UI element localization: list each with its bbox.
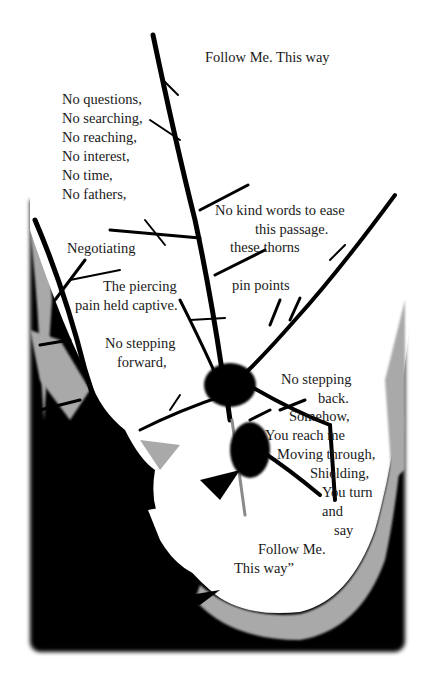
line-these-thorns: these thorns <box>230 240 300 255</box>
line-pain-held-captive: pain held captive. <box>75 298 178 313</box>
line-kind-words: No kind words to ease <box>215 203 345 218</box>
line-you-turn: You turn <box>322 485 373 500</box>
line-shielding: Shielding, <box>310 466 369 481</box>
line-no-reaching: No reaching, <box>62 128 143 147</box>
line-no-fathers: No fathers, <box>62 185 143 204</box>
poem-title-line: Follow Me. This way <box>205 50 330 65</box>
line-follow-me: Follow Me. <box>258 542 326 557</box>
line-no-stepping-forward-1: No stepping <box>105 336 175 351</box>
line-no-stepping-back-1: No stepping <box>281 372 351 387</box>
line-and: and <box>322 504 343 519</box>
line-this-passage: this passage. <box>255 222 328 237</box>
stanza-no-list: No questions, No searching, No reaching,… <box>62 90 143 204</box>
line-this-way-end: This way” <box>234 561 294 576</box>
line-say: say <box>334 523 353 538</box>
line-no-searching: No searching, <box>62 109 143 128</box>
line-the-piercing: The piercing <box>103 279 177 294</box>
line-no-stepping-back-2: back. <box>318 391 349 406</box>
line-no-questions: No questions, <box>62 90 143 109</box>
line-moving-through: Moving through, <box>277 447 375 462</box>
line-no-interest: No interest, <box>62 147 143 166</box>
line-pin-points: pin points <box>232 278 290 293</box>
line-negotiating: Negotiating <box>67 241 135 256</box>
line-no-time: No time, <box>62 166 143 185</box>
line-you-reach-me: You reach me <box>265 428 345 443</box>
line-no-stepping-forward-2: forward, <box>117 355 167 370</box>
line-somehow: Somehow, <box>289 409 350 424</box>
